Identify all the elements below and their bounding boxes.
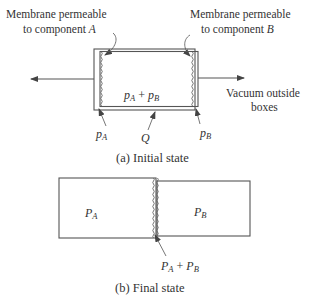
q-label: Q [141,131,150,145]
vacuum-label-line2: boxes [251,101,278,113]
caption-initial-state: (a) Initial state [116,151,189,165]
vacuum-label-line1: Vacuum outside [226,87,300,99]
final-membrane-label: PA + PB [160,259,199,274]
membrane-a-label-line1: Membrane permeable [6,8,107,21]
final-box-b-label: PB [193,205,207,220]
membrane-a-label-line2: to component A [23,23,97,36]
final-box-b [157,181,250,236]
caption-final-state: (b) Final state [115,281,185,295]
final-box-a-label: PA [84,206,98,221]
final-membrane-wavy-2 [157,178,159,238]
q-pointer-arrow [148,112,155,130]
part-b-final-state: PA PB PA + PB (b) Final state [59,178,250,295]
final-box-a [59,178,156,238]
membrane-b-wavy [192,52,194,106]
membrane-b-pointer-arrow [185,35,190,56]
membrane-a-wavy [101,52,103,106]
final-membrane-pointer-arrow [155,235,166,256]
pa-label: pA [95,127,108,142]
pa-pointer-arrow [99,109,106,126]
final-membrane-wavy [153,178,155,238]
diagram-canvas: Membrane permeable to component A Membra… [0,0,314,304]
center-pressure-expression: pA + pB [123,88,159,103]
pb-label: pB [199,126,211,141]
membrane-b-label-line2: to component B [201,23,274,36]
pb-pointer-arrow [196,109,200,124]
membrane-b-label-line1: Membrane permeable [190,8,291,21]
part-a-initial-state: Membrane permeable to component A Membra… [6,8,300,165]
